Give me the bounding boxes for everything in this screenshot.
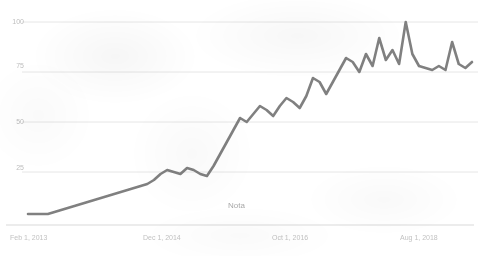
chart-screenshot: 100 75 50 25 Feb 1, 2013 Dec 1, 2014 Oct… [0, 0, 480, 256]
x-axis-tick-label-third: Oct 1, 2016 [272, 233, 308, 242]
line-chart-plot [0, 0, 480, 256]
chart-note-annotation: Nota [228, 201, 245, 211]
trend-line-series [28, 22, 472, 214]
y-axis-tick-label-50: 50 [4, 118, 24, 126]
x-axis-tick-label-start: Feb 1, 2013 [10, 233, 47, 242]
y-axis-tick-label-75: 75 [4, 62, 24, 70]
x-axis-tick-label-second: Dec 1, 2014 [143, 233, 181, 242]
y-axis-tick-label-25: 25 [4, 164, 24, 172]
x-axis-tick-label-end: Aug 1, 2018 [400, 233, 438, 242]
y-axis-tick-label-100: 100 [4, 18, 24, 26]
